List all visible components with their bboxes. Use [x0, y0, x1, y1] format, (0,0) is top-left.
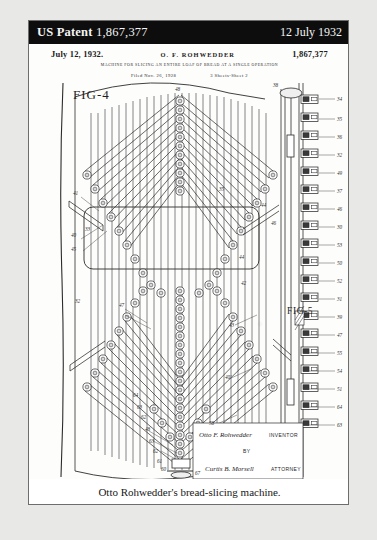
ref-numeral: 63	[337, 422, 343, 428]
ref-numeral: 42	[241, 280, 247, 286]
patent-header-number: 1,867,377	[96, 25, 148, 39]
patent-sheet-count: 3 Sheets-Sheet 2	[210, 73, 248, 78]
patent-issue-date: July 12, 1932.	[51, 49, 103, 59]
pulley-column-lower	[176, 287, 184, 457]
patent-sheet-headline: July 12, 1932. O. F. ROHWEDDER 1,867,377	[29, 49, 349, 59]
ref-numeral: 37	[337, 188, 343, 194]
ref-numeral: 32	[337, 152, 343, 158]
inventor-signature: Otto F. Rohwedder	[199, 431, 252, 439]
ref-numeral: 36	[337, 134, 343, 140]
ref-numeral: 58	[209, 420, 215, 426]
ref-numeral: 54	[337, 368, 343, 374]
ref-numeral: 43	[229, 322, 235, 328]
ref-numeral: 46	[271, 220, 277, 226]
figure-label-fig5: FIG-5	[287, 306, 313, 316]
ref-numeral: 64	[337, 404, 343, 410]
patent-header-left: US Patent 1,867,377	[37, 25, 148, 40]
patent-header-date: 12 July 1932	[280, 25, 342, 40]
patent-header-label: US Patent	[37, 25, 93, 39]
ref-numeral: 40	[71, 232, 77, 238]
ref-numeral: 53	[337, 242, 343, 248]
bracket-stack	[301, 95, 318, 427]
by-label: BY	[243, 448, 251, 454]
ref-numeral: 44	[261, 202, 267, 208]
patent-drawing-svg: FIG-4 FIG-5 Otto F. Rohwedder INVENTOR B…	[29, 79, 349, 481]
ref-numeral: 35	[337, 116, 343, 122]
ref-numeral: 45	[71, 246, 77, 252]
patent-filing-line: Filed Nov. 26, 1928 3 Sheets-Sheet 2	[29, 73, 349, 78]
patent-drawing: FIG-4 FIG-5 Otto F. Rohwedder INVENTOR B…	[29, 79, 349, 481]
figure-label-fig4: FIG-4	[73, 87, 110, 102]
ref-numeral: 48	[145, 426, 151, 432]
ref-numeral: 46	[337, 206, 343, 212]
ref-numeral: 48	[175, 86, 181, 92]
ref-numeral: 32	[75, 298, 81, 304]
signature-block: Otto F. Rohwedder INVENTOR BY Curtis B. …	[193, 423, 303, 479]
ref-numeral: 41	[73, 190, 79, 196]
inventor-label: INVENTOR	[269, 432, 298, 438]
ref-numeral: 31	[337, 296, 343, 302]
patent-invention-title: MACHINE FOR SLICING AN ENTIRE LOAF OF BR…	[29, 63, 349, 68]
figure-caption: Otto Rohwedder's bread-slicing machine.	[29, 479, 349, 504]
ref-numeral: 47	[337, 332, 343, 338]
ref-numeral: 62	[141, 414, 147, 420]
ref-numeral: 62	[153, 448, 159, 454]
ref-numeral: 67	[195, 470, 201, 476]
attorney-label: ATTORNEY	[271, 466, 301, 472]
patent-header-bar: US Patent 1,867,377 12 July 1932	[28, 20, 349, 44]
ref-numeral: 64	[133, 392, 139, 398]
ref-numeral: 55	[337, 350, 343, 356]
ref-numeral: 51	[337, 386, 343, 392]
ref-numeral: 49	[337, 170, 343, 176]
patent-filed-date: Filed Nov. 26, 1928	[131, 73, 176, 78]
ref-numeral: 60	[161, 466, 167, 472]
ref-numeral: 34	[337, 96, 343, 102]
ref-numeral: 63	[149, 438, 155, 444]
ref-numeral: 33	[85, 226, 91, 232]
ref-numeral: 47	[119, 302, 125, 308]
ref-numeral: 35	[219, 186, 225, 192]
ref-numeral: 44	[239, 254, 245, 260]
attorney-signature: Curtis B. Morsell	[205, 465, 254, 473]
ref-numeral: 30	[337, 224, 343, 230]
pulley-column-upper	[176, 97, 184, 195]
ref-numeral: 38	[273, 82, 279, 88]
patent-page-frame: US Patent 1,867,377 12 July 1932 July 12…	[28, 20, 349, 505]
patent-sheet-number: 1,867,377	[292, 49, 328, 59]
patent-inventor-name: O. F. ROHWEDDER	[161, 51, 236, 58]
pulley-run-upper-left	[83, 171, 165, 297]
ref-numeral: 39	[337, 314, 343, 320]
pulley-run-upper-right	[195, 171, 277, 297]
ref-numeral: 63	[137, 404, 143, 410]
ref-numeral: 61	[157, 458, 163, 464]
ref-numeral: 40'	[225, 374, 232, 380]
ref-numeral: 52	[337, 278, 343, 284]
ref-numeral: 50	[337, 260, 343, 266]
patent-sheet: July 12, 1932. O. F. ROHWEDDER 1,867,377…	[29, 45, 349, 481]
